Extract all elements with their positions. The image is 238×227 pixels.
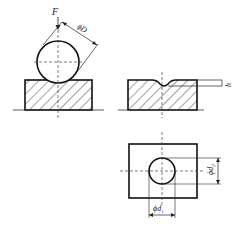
specimen-block xyxy=(25,80,92,110)
d2-label: ϕd2 xyxy=(206,164,216,175)
dim-arrowhead-1 xyxy=(62,22,67,26)
view-ball-on-specimen: F ϕD xyxy=(13,6,104,118)
view-indented-section: h xyxy=(118,72,233,118)
d2-arrow-bottom xyxy=(216,180,220,184)
dim-arrowhead-2 xyxy=(92,41,97,45)
d1-arrow-left xyxy=(149,213,153,217)
diagram-canvas: F ϕD h ϕd2 ϕd1 xyxy=(0,0,238,227)
view-indent-top: ϕd2 ϕd1 xyxy=(120,132,221,218)
diagram-svg: F ϕD h ϕd2 ϕd1 xyxy=(0,0,238,227)
d1-arrow-right xyxy=(171,213,175,217)
ball-diameter-label: ϕD xyxy=(76,22,89,35)
depth-label: h xyxy=(224,83,233,87)
specimen-section xyxy=(128,80,197,110)
force-label: F xyxy=(51,6,59,17)
d2-arrow-top xyxy=(216,158,220,162)
d1-label: ϕd1 xyxy=(153,204,164,214)
